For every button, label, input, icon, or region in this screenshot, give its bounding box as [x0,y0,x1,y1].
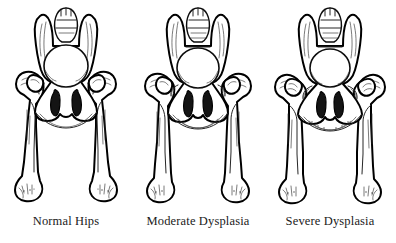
caption-severe: Severe Dysplasia [264,213,396,229]
femoral-head-right-severe [358,79,375,96]
hip-dysplasia-diagram: Normal Hips [0,0,396,243]
pelvis-severe [298,8,362,131]
panel-severe: Severe Dysplasia [264,0,396,243]
panel-normal: Normal Hips [0,0,132,243]
pelvis-illustration-normal [0,0,132,210]
panel-moderate: Moderate Dysplasia [132,0,264,243]
pelvis-normal [35,8,98,128]
femoral-head-right-normal [89,75,105,92]
femoral-head-left-normal [27,75,43,92]
pelvis-illustration-severe [264,0,396,210]
caption-normal: Normal Hips [0,213,132,229]
femoral-head-left-severe [285,79,302,96]
femoral-head-right-moderate [224,77,240,94]
pelvis-illustration-moderate [132,0,264,210]
femoral-head-left-moderate [156,77,172,94]
pelvis-moderate [167,8,230,129]
caption-moderate: Moderate Dysplasia [132,213,264,229]
